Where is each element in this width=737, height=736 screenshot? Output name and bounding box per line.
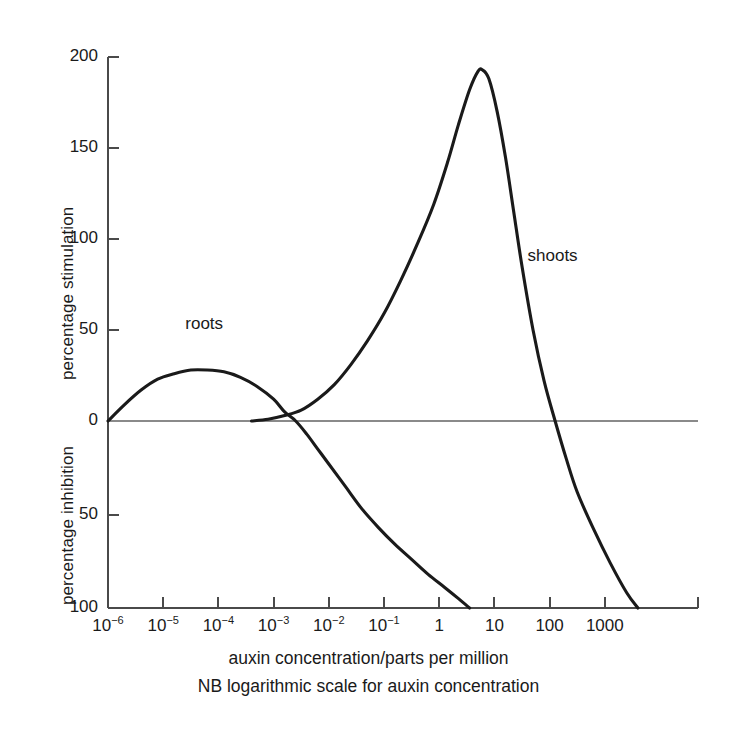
y-tick-label-up-50: 50	[79, 319, 98, 339]
x-axis-title: auxin concentration/parts per million	[0, 648, 737, 669]
curve-label-shoots: shoots	[528, 246, 578, 266]
x-tick-label-6: 1	[434, 616, 443, 636]
x-axis-note: NB logarithmic scale for auxin concentra…	[0, 676, 737, 697]
y-tick-label-up-0: 0	[89, 410, 98, 430]
curve-group	[108, 69, 638, 608]
x-tick-label-9: 1000	[586, 616, 624, 636]
y-axis-label-inhibition: percentage inhibition	[58, 446, 78, 605]
y-tick-label-down-50: 50	[79, 504, 98, 524]
y-tick-label-up-100: 100	[70, 228, 98, 248]
curve-shoots	[252, 69, 638, 608]
x-tick-label-0: 10−6	[92, 616, 123, 636]
y-tick-label-up-200: 200	[70, 46, 98, 66]
x-tick-label-2: 10−4	[203, 616, 234, 636]
x-tick-label-7: 10	[485, 616, 504, 636]
x-tick-label-4: 10−2	[313, 616, 344, 636]
x-tick-label-1: 10−5	[147, 616, 178, 636]
x-tick-label-8: 100	[535, 616, 563, 636]
x-tick-label-5: 10−1	[368, 616, 399, 636]
y-tick-label-up-150: 150	[70, 137, 98, 157]
auxin-response-chart: percentage stimulation percentage inhibi…	[0, 0, 737, 736]
y-tick-label-down-100: 100	[70, 597, 98, 617]
curve-roots	[108, 370, 470, 608]
curve-label-roots: roots	[185, 314, 223, 334]
x-tick-label-3: 10−3	[258, 616, 289, 636]
